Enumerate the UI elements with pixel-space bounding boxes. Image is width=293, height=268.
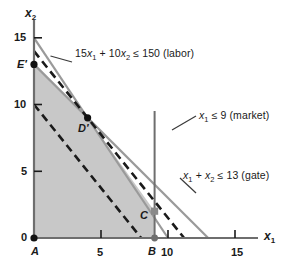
vertex-label-C: C	[140, 209, 148, 221]
vertex-label-B: B	[148, 245, 156, 257]
y-axis-label: x2	[25, 6, 36, 22]
linear-programming-graph: x2 x1 15 10 5 0 5 10 15 A B C D′ E′ 15x1…	[0, 0, 293, 268]
x-tick-label-5: 5	[97, 246, 103, 258]
vertex-D-marker	[84, 114, 91, 121]
labor-constraint-label: 15x1 + 10x2 ≤ 150 (labor)	[75, 47, 194, 62]
y-tick-label-10: 10	[14, 98, 26, 110]
market-constraint-label: x1 ≤ 9 (market)	[199, 109, 269, 124]
market-leader-line	[172, 116, 196, 130]
feasible-region	[34, 64, 155, 238]
y-tick-label-15: 15	[14, 31, 26, 43]
vertex-C-marker	[151, 208, 158, 215]
plot-canvas	[0, 0, 293, 268]
vertex-label-D: D′	[78, 122, 89, 134]
vertex-label-A: A	[31, 245, 39, 257]
vertex-label-E: E′	[17, 58, 27, 70]
vertex-E-marker	[30, 61, 37, 68]
x-tick-label-10: 10	[161, 246, 173, 258]
x-axis-label: x1	[264, 229, 275, 245]
vertex-B-marker	[151, 235, 158, 242]
origin-tick-label: 0	[21, 231, 27, 243]
y-tick-label-5: 5	[21, 165, 27, 177]
x-tick-label-15: 15	[231, 246, 243, 258]
labor-leader-line	[51, 56, 73, 62]
vertex-A-marker	[30, 234, 37, 241]
gate-constraint-label: x1 + x2 ≤ 13 (gate)	[183, 169, 269, 184]
